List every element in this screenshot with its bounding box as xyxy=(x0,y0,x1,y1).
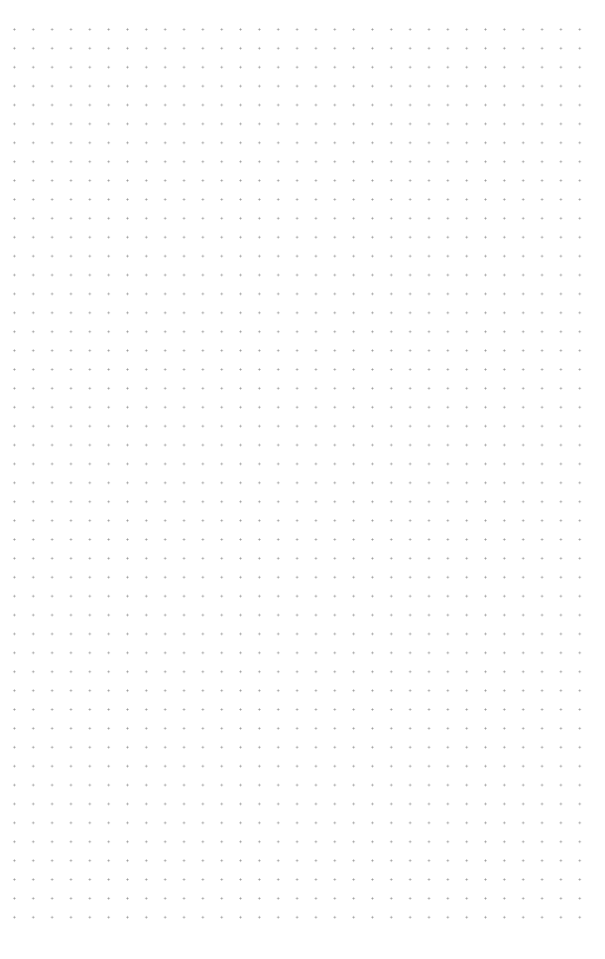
dot-grid-pattern xyxy=(5,20,585,930)
dot-grid-canvas[interactable] xyxy=(0,0,605,959)
